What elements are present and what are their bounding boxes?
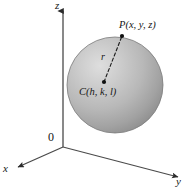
surface-point-dot [120,34,124,38]
center-point-dot [102,80,106,84]
radius-label: r [101,52,105,62]
sphere-diagram-figure: z y x 0 P(x, y, z) C(h, k, l) r [0,0,185,195]
origin-label: 0 [48,131,54,143]
point-p-label: P(x, y, z) [119,20,156,31]
diagram-canvas [0,0,185,195]
y-axis-label: y [176,176,181,187]
sphere-shape [67,37,163,133]
point-c-label: C(h, k, l) [79,87,116,98]
x-axis-line [18,147,63,167]
z-axis-label: z [55,0,59,11]
y-axis-line [63,147,178,177]
x-axis-label: x [3,163,8,174]
